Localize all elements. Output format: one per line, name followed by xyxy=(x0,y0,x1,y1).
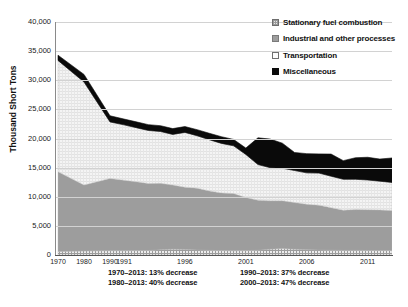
y-axis-tick-label: 5,000 xyxy=(0,221,51,230)
legend-item-label: Industrial and other processes xyxy=(283,34,395,43)
gridline xyxy=(56,168,392,169)
y-axis-tick-label: 25,000 xyxy=(0,104,51,113)
chart-legend: Stationary fuel combustionIndustrial and… xyxy=(272,15,408,81)
x-axis-tick-label: 1991 xyxy=(116,258,132,265)
legend-item[interactable]: Stationary fuel combustion xyxy=(272,15,408,29)
crosshatch-swatch-icon xyxy=(272,19,279,26)
gridline xyxy=(56,226,392,227)
trend-annotations: 1970–2013: 13% decrease1990–2013: 37% de… xyxy=(108,268,398,287)
x-axis-tick-label: 1980 xyxy=(76,258,92,265)
gridline xyxy=(56,109,392,110)
gray-swatch-icon xyxy=(272,35,279,42)
x-axis-tick-label: 2001 xyxy=(238,258,254,265)
y-axis-tick-label: 40,000 xyxy=(0,17,51,26)
legend-item-label: Stationary fuel combustion xyxy=(283,18,382,27)
y-axis-tick-label: 10,000 xyxy=(0,192,51,201)
white-swatch-icon xyxy=(272,52,279,59)
x-axis-tick-label: 2011 xyxy=(360,258,375,265)
chart-figure: Thousand Short Tons 40,00035,00030,00025… xyxy=(0,0,408,307)
trend-annotation: 1980–2013: 40% decrease xyxy=(108,278,240,287)
x-axis-tick-label: 2006 xyxy=(299,258,315,265)
x-axis-tick-label: 1970 xyxy=(50,258,66,265)
legend-item-label: Transportation xyxy=(283,51,337,60)
black-swatch-icon xyxy=(272,68,279,75)
legend-item-label: Miscellaneous xyxy=(283,67,336,76)
legend-item[interactable]: Industrial and other processes xyxy=(272,32,408,46)
legend-item[interactable]: Miscellaneous xyxy=(272,65,408,79)
trend-annotation: 1970–2013: 13% decrease xyxy=(108,268,240,277)
y-axis-tick-label: 0 xyxy=(0,250,51,259)
trend-annotation: 2000–2013: 47% decrease xyxy=(240,278,390,287)
y-axis-tick-label: 35,000 xyxy=(0,46,51,55)
trend-annotation: 1990–2013: 37% decrease xyxy=(240,268,390,277)
gridline xyxy=(56,139,392,140)
x-axis-line xyxy=(55,255,393,256)
y-axis-tick-label: 15,000 xyxy=(0,163,51,172)
y-axis-tick-label: 20,000 xyxy=(0,134,51,143)
x-axis-tick-label: 1996 xyxy=(177,258,193,265)
gridline xyxy=(56,197,392,198)
legend-item[interactable]: Transportation xyxy=(272,48,408,62)
y-axis-tick-label: 30,000 xyxy=(0,75,51,84)
